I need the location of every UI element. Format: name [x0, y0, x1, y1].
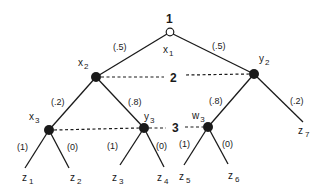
node-label-w3: w3 [191, 110, 205, 124]
leaf-label-z5: z5 [179, 171, 191, 185]
player-label-1: 1 [166, 12, 173, 26]
edge-x1-y2 [173, 34, 254, 74]
node-x2 [91, 72, 101, 82]
node-x3 [44, 125, 54, 135]
player-label-3: 3 [172, 121, 179, 135]
edge-x3-z1 [25, 130, 49, 168]
leaf-label-z3: z3 [112, 172, 124, 186]
edge-x3-z2 [49, 130, 69, 168]
node-label-x2: x2 [78, 57, 89, 71]
prob-y2-left: (.8) [209, 96, 223, 106]
leaf-label-z7: z7 [298, 125, 310, 139]
leaf-label-z2: z2 [70, 172, 82, 186]
prob-x3-right: (0) [67, 142, 78, 152]
node-y2 [249, 69, 259, 79]
prob-x2-left: (.2) [51, 97, 65, 107]
edge-x1-x2 [96, 34, 167, 77]
leaf-label-z4: z4 [157, 172, 169, 186]
infoset-3-left [54, 128, 139, 130]
node-label-x3: x3 [29, 111, 40, 125]
node-label-y3: y3 [144, 111, 155, 125]
prob-x1-right: (.5) [212, 41, 226, 51]
player-label-2: 2 [170, 71, 177, 85]
prob-x1-left: (.5) [113, 42, 127, 52]
prob-y2-right: (.2) [290, 96, 304, 106]
node-y3 [139, 123, 149, 133]
root-chance-node [166, 28, 174, 36]
prob-w3-left: (1) [179, 139, 190, 149]
game-tree-diagram: 1 2 3 x1 x2 y2 x3 y3 w3 (.5) (.5) (.2) (… [0, 0, 326, 196]
leaf-label-z1: z1 [22, 172, 34, 186]
infoset-2-right [186, 74, 249, 75]
prob-x3-left: (1) [17, 142, 28, 152]
node-label-x1: x1 [163, 44, 174, 58]
prob-x2-right: (.8) [128, 97, 142, 107]
leaf-label-z6: z6 [228, 170, 240, 184]
edge-y3-z3 [120, 128, 144, 165]
prob-y3-right: (0) [156, 141, 167, 151]
prob-y3-left: (1) [107, 141, 118, 151]
prob-w3-right: (0) [222, 139, 233, 149]
node-label-y2: y2 [259, 53, 270, 67]
